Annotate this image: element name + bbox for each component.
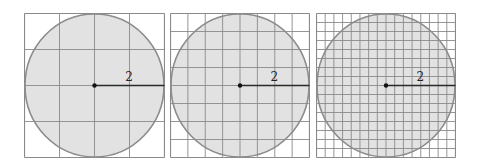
circle-grid-panel-1: 2 2 xyxy=(24,13,165,158)
radius-label: 2 xyxy=(271,70,279,84)
circle-grid-panel-3: 2 2 xyxy=(316,13,456,158)
circle-grid-16x16: 2 xyxy=(316,13,456,158)
center-point xyxy=(92,83,96,87)
center-point xyxy=(384,83,388,87)
radius-label: 2 xyxy=(125,70,133,84)
circle-grid-4x4: 2 xyxy=(24,13,165,158)
radius-label: 2 xyxy=(417,70,425,84)
circle-grid-panel-2: 2 2 xyxy=(170,13,310,158)
center-point xyxy=(238,83,242,87)
circle-grid-8x8: 2 xyxy=(170,13,310,158)
